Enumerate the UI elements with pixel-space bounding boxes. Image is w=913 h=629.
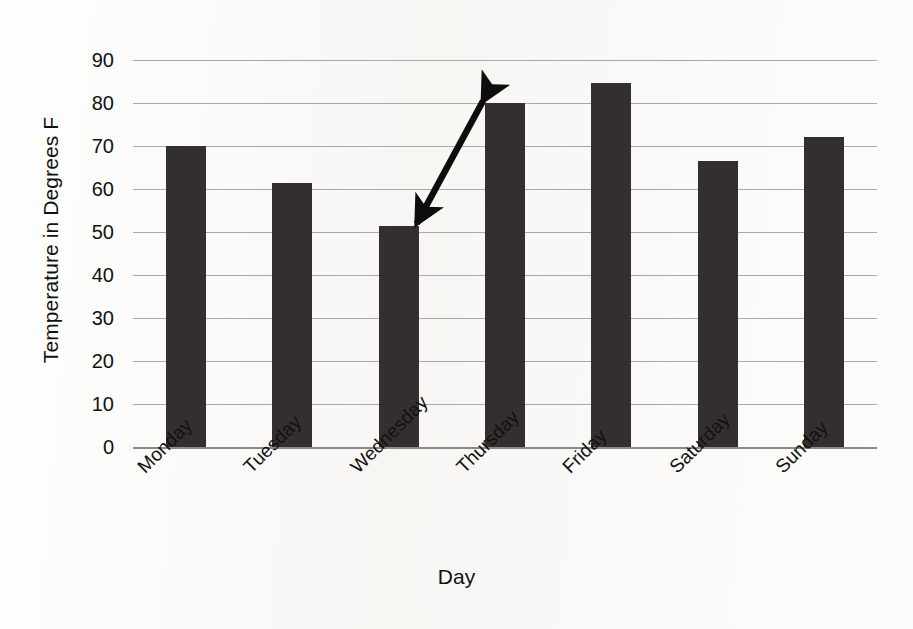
x-tick-label-tuesday: Tuesday	[240, 412, 304, 476]
x-tick-label-monday: Monday	[134, 415, 195, 476]
x-tick-label-thursday: Thursday	[453, 407, 522, 476]
x-tick-label-sunday: Sunday	[772, 417, 831, 476]
x-tick-label-friday: Friday	[559, 426, 610, 477]
x-tick-label-wednesday: Wednesday	[347, 392, 431, 476]
x-tick-label-saturday: Saturday	[666, 409, 733, 476]
x-axis-title: Day	[0, 565, 913, 589]
x-axis-tick-labels: MondayTuesdayWednesdayThursdayFridaySatu…	[0, 0, 913, 629]
bar-chart: Temperature in Degrees F 010203040506070…	[0, 0, 913, 629]
